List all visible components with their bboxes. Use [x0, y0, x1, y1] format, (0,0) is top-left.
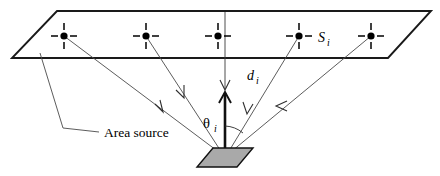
sample-symbol-subscript: i	[327, 37, 330, 48]
ray-arrowhead-2	[176, 85, 184, 98]
receiver-patch	[197, 148, 253, 167]
ray-line-4	[226, 36, 371, 156]
angle-symbol-label: θ	[203, 115, 210, 131]
ray-arrowhead-3	[243, 102, 253, 114]
distance-symbol-subscript: i	[256, 75, 259, 86]
figure-canvas: Area source S i d i θ i	[0, 0, 440, 176]
sample-point-dot	[367, 32, 374, 39]
sample-symbol-label: S	[318, 30, 325, 45]
sample-point-4	[286, 23, 312, 49]
sample-point-2	[133, 23, 159, 49]
distance-symbol-label: d	[247, 68, 255, 83]
sample-point-dot	[214, 32, 221, 39]
angle-symbol-subscript: i	[214, 123, 217, 134]
sample-point-dot	[142, 32, 149, 39]
area-source-label: Area source	[104, 125, 169, 140]
sample-point-1	[51, 23, 77, 49]
sample-point-3	[205, 23, 231, 49]
sample-point-5	[358, 23, 384, 49]
ray-arrowhead-1	[155, 100, 163, 112]
area-source-leader-line	[40, 53, 99, 132]
sample-point-dot	[295, 32, 302, 39]
ray-line-3	[226, 36, 299, 156]
diagram-svg: Area source S i d i θ i	[0, 0, 440, 176]
sample-point-dot	[60, 32, 67, 39]
